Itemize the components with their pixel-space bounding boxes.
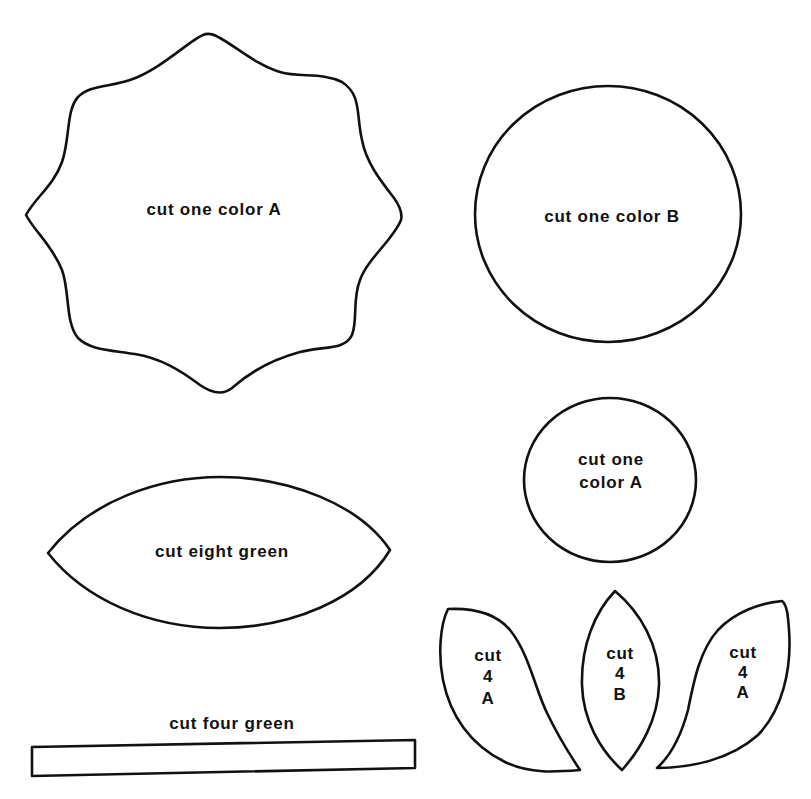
scalloped-flower-label: cut one color A <box>146 200 281 219</box>
left-petal-piece: cut 4 A <box>440 609 580 772</box>
pattern-sheet: cut one color A cut one color B cut one … <box>0 0 811 799</box>
right-petal-outline <box>657 601 790 768</box>
center-petal-label-line-3: B <box>614 685 627 704</box>
left-petal-label-line-3: A <box>482 689 495 708</box>
left-petal-outline <box>440 609 580 772</box>
small-circle-label-line-1: cut one <box>578 450 644 469</box>
right-petal-label-line-1: cut <box>729 643 756 662</box>
center-petal-piece: cut 4 B <box>582 591 659 770</box>
left-petal-label-line-2: 4 <box>483 667 493 686</box>
large-leaf-piece: cut eight green <box>48 477 390 628</box>
stem-outline <box>32 740 415 776</box>
right-petal-label-line-2: 4 <box>738 663 748 682</box>
stem-label: cut four green <box>169 714 295 733</box>
right-petal-piece: cut 4 A <box>657 601 790 768</box>
small-circle-piece: cut one color A <box>524 398 696 562</box>
large-circle-piece: cut one color B <box>475 86 741 342</box>
large-circle-label: cut one color B <box>544 207 680 226</box>
stem-piece: cut four green <box>32 714 415 776</box>
center-petal-label-line-1: cut <box>606 644 633 663</box>
right-petal-label-line-3: A <box>737 683 750 702</box>
center-petal-label-line-2: 4 <box>615 664 625 683</box>
large-leaf-label: cut eight green <box>155 542 289 561</box>
left-petal-label-line-1: cut <box>474 646 501 665</box>
scalloped-flower-piece: cut one color A <box>26 34 402 393</box>
small-circle-label-line-2: color A <box>579 473 643 492</box>
